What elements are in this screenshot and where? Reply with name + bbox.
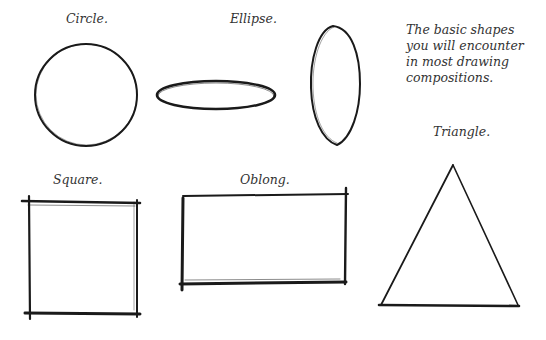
shapes-drawing: [0, 0, 546, 340]
oblong-shape: [180, 188, 348, 290]
horizontal-ellipse-shape: [157, 81, 275, 109]
triangle-shape: [379, 165, 519, 306]
vertical-ellipse-shape: [311, 26, 360, 145]
circle-shape: [35, 44, 137, 146]
square-shape: [22, 196, 140, 319]
